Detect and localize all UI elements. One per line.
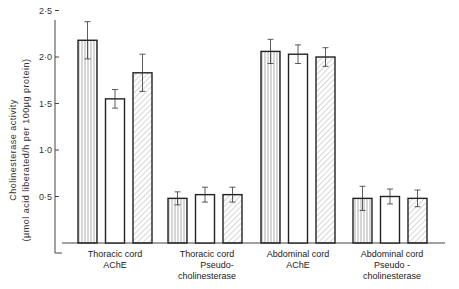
bar — [133, 54, 152, 243]
category-label: Abdominal cord — [267, 249, 330, 259]
bar — [223, 187, 242, 243]
category-labels: Thoracic cordAChEThoracic cordPseudo-cho… — [88, 249, 424, 281]
bar — [408, 190, 427, 243]
y-axis-title: Cholinesterase activity (µmol acid liber… — [8, 59, 31, 242]
category-label: cholinesterase — [363, 271, 421, 281]
category-label: Pseudo- — [200, 260, 234, 270]
chart: 0·51·01·52·02·5 Thoracic cordAChEThoraci… — [0, 0, 459, 289]
y-tick-label: 2·0 — [39, 52, 52, 62]
y-axis-title-line1: Cholinesterase activity — [8, 99, 18, 201]
category-label: cholinesterase — [178, 271, 236, 281]
category-label: AChE — [286, 260, 310, 270]
category-label: Thoracic cord — [180, 249, 235, 259]
y-tick-label: 1·0 — [39, 145, 52, 155]
bar — [106, 90, 125, 243]
bar — [289, 45, 308, 243]
y-axis-title-line2: (µmol acid liberated/h per 100µg protein… — [21, 59, 31, 242]
category-label: AChE — [103, 260, 127, 270]
bar — [168, 192, 187, 243]
category-label: Thoracic cord — [88, 249, 143, 259]
bar — [261, 39, 280, 243]
y-tick-label: 2·5 — [39, 6, 52, 16]
bar — [316, 48, 335, 243]
y-tick-label: 1·5 — [39, 99, 52, 109]
bar — [196, 187, 215, 243]
bar — [353, 186, 372, 243]
category-label: Abdominal cord — [361, 249, 424, 259]
bar — [381, 189, 400, 243]
y-tick-label: 0·5 — [39, 192, 52, 202]
bar — [78, 22, 97, 243]
category-label: Pseudo - — [374, 260, 410, 270]
bars — [78, 22, 427, 243]
